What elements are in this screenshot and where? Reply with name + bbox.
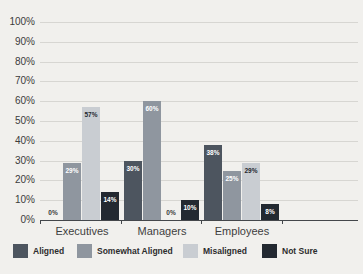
x-axis-tick xyxy=(282,220,283,224)
bar-value-label-executives-not-sure: 14% xyxy=(98,196,122,204)
bar-value-label-executives-misaligned: 57% xyxy=(79,111,103,119)
legend-item-somewhat-aligned: Somewhat Aligned xyxy=(77,244,173,258)
bar-value-label-managers-not-sure: 10% xyxy=(178,204,202,212)
legend-label-aligned: Aligned xyxy=(33,244,64,258)
gridline xyxy=(40,101,358,102)
bar-value-label-employees-not-sure: 8% xyxy=(258,208,282,216)
legend-swatch-misaligned xyxy=(183,244,198,258)
gridline xyxy=(40,62,358,63)
y-axis-tick-label: 60% xyxy=(0,95,35,107)
y-axis-tick-label: 40% xyxy=(0,135,35,147)
bar-chart: Aligned Somewhat Aligned Misaligned Not … xyxy=(0,0,363,274)
bar-value-label-employees-misaligned: 29% xyxy=(239,167,263,175)
x-axis-tick xyxy=(121,220,122,224)
legend-label-not-sure: Not Sure xyxy=(282,244,317,258)
y-axis-tick-label: 90% xyxy=(0,36,35,48)
y-axis-tick-label: 80% xyxy=(0,56,35,68)
x-axis-tick xyxy=(201,220,202,224)
x-axis-tick xyxy=(40,220,41,224)
y-axis-tick-label: 30% xyxy=(0,155,35,167)
legend-swatch-not-sure xyxy=(262,244,277,258)
x-axis-line xyxy=(40,220,358,221)
gridline xyxy=(40,42,358,43)
y-axis-tick-label: 100% xyxy=(0,16,35,28)
bar-managers-somewhat-aligned xyxy=(143,101,161,220)
y-axis-tick-label: 0% xyxy=(0,214,35,226)
bar-value-label-executives-aligned: 0% xyxy=(41,209,65,217)
bar-value-label-executives-somewhat-aligned: 29% xyxy=(60,167,84,175)
legend-label-misaligned: Misaligned xyxy=(203,244,247,258)
y-axis-tick-label: 20% xyxy=(0,174,35,186)
x-axis-category-label-managers: Managers xyxy=(122,225,202,237)
legend-label-somewhat-aligned: Somewhat Aligned xyxy=(97,244,173,258)
legend-swatch-somewhat-aligned xyxy=(77,244,92,258)
y-axis-tick-label: 10% xyxy=(0,194,35,206)
x-axis-category-label-executives: Executives xyxy=(42,225,122,237)
bar-value-label-employees-somewhat-aligned: 25% xyxy=(220,175,244,183)
bar-value-label-employees-aligned: 38% xyxy=(201,149,225,157)
y-axis-tick-label: 50% xyxy=(0,115,35,127)
bar-value-label-managers-aligned: 30% xyxy=(121,165,145,173)
x-axis-category-label-employees: Employees xyxy=(202,225,282,237)
gridline xyxy=(40,81,358,82)
bar-value-label-managers-somewhat-aligned: 60% xyxy=(140,105,164,113)
legend-swatch-aligned xyxy=(13,244,28,258)
y-axis-tick-label: 70% xyxy=(0,75,35,87)
gridline xyxy=(40,22,358,23)
legend-item-misaligned: Misaligned xyxy=(183,244,247,258)
legend-item-not-sure: Not Sure xyxy=(262,244,317,258)
legend-item-aligned: Aligned xyxy=(13,244,64,258)
